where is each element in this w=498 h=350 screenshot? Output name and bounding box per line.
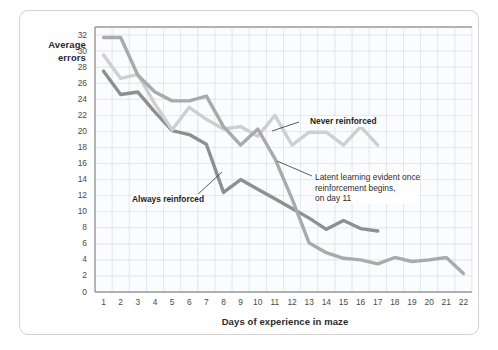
- x-tick-label: 17: [370, 297, 386, 307]
- x-tick-label: 22: [455, 297, 471, 307]
- x-tick-label: 2: [113, 297, 129, 307]
- y-tick-label: 0: [71, 287, 87, 297]
- x-tick-label: 14: [318, 297, 334, 307]
- x-tick-label: 15: [335, 297, 351, 307]
- annotation-always-reinforced: Always reinforced: [132, 194, 204, 205]
- x-tick-label: 6: [181, 297, 197, 307]
- x-tick-label: 19: [404, 297, 420, 307]
- y-tick-label: 4: [71, 254, 87, 264]
- y-tick-label: 12: [71, 190, 87, 200]
- y-tick-label: 2: [71, 270, 87, 280]
- y-tick-label: 26: [71, 78, 87, 88]
- x-tick-label: 8: [216, 297, 232, 307]
- grid-layer: [95, 27, 472, 292]
- x-tick-label: 16: [353, 297, 369, 307]
- x-tick-label: 7: [198, 297, 214, 307]
- x-tick-label: 21: [438, 297, 454, 307]
- x-tick-label: 11: [267, 297, 283, 307]
- y-tick-label: 32: [71, 30, 87, 40]
- y-tick-label: 22: [71, 110, 87, 120]
- x-tick-label: 12: [284, 297, 300, 307]
- y-tick-label: 28: [71, 62, 87, 72]
- x-tick-label: 9: [233, 297, 249, 307]
- x-tick-label: 18: [387, 297, 403, 307]
- y-tick-label: 24: [71, 94, 87, 104]
- x-tick-label: 13: [301, 297, 317, 307]
- annotation-never-reinforced: Never reinforced: [310, 116, 377, 127]
- y-tick-label: 30: [71, 46, 87, 56]
- x-tick-label: 5: [164, 297, 180, 307]
- y-tick-label: 18: [71, 142, 87, 152]
- x-tick-label: 4: [147, 297, 163, 307]
- y-tick-label: 14: [71, 174, 87, 184]
- annotation-latent-learning: Latent learning evident once reinforceme…: [315, 172, 420, 204]
- y-tick-label: 20: [71, 126, 87, 136]
- x-tick-label: 20: [421, 297, 437, 307]
- y-tick-label: 16: [71, 158, 87, 168]
- x-tick-label: 1: [96, 297, 112, 307]
- x-axis-title: Days of experience in maze: [160, 316, 410, 327]
- y-tick-label: 8: [71, 222, 87, 232]
- latent-learning-line-chart: Average errors Days of experience in maz…: [0, 0, 498, 350]
- y-tick-label: 6: [71, 238, 87, 248]
- x-tick-label: 3: [130, 297, 146, 307]
- y-tick-label: 10: [71, 206, 87, 216]
- x-tick-label: 10: [250, 297, 266, 307]
